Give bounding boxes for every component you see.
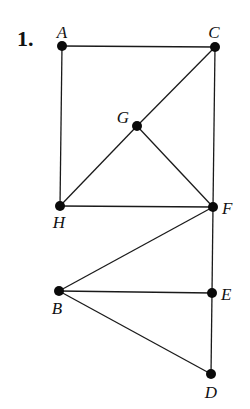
vertex-label-b: B [52, 299, 63, 318]
edge-g-h [60, 126, 137, 206]
edge-g-f [137, 126, 213, 207]
vertex-label-e: E [220, 285, 232, 304]
vertex-label-c: C [208, 23, 220, 42]
graph-labels: ACGHFBED [52, 23, 233, 402]
vertex-a [57, 41, 67, 51]
edge-h-f [60, 206, 213, 207]
edge-f-e [212, 207, 213, 293]
vertex-label-g: G [117, 108, 129, 127]
vertex-g [132, 121, 142, 131]
graph-diagram: 1. ACGHFBED [0, 0, 250, 409]
problem-number: 1. [17, 26, 34, 51]
vertex-h [55, 201, 65, 211]
vertex-e [207, 288, 217, 298]
edge-c-f [213, 47, 215, 207]
graph-nodes [54, 41, 220, 379]
vertex-d [206, 369, 216, 379]
vertex-f [208, 202, 218, 212]
edge-f-b [59, 207, 213, 291]
vertex-label-a: A [56, 23, 68, 42]
vertex-c [210, 42, 220, 52]
vertex-b [54, 286, 64, 296]
vertex-label-d: D [204, 383, 218, 402]
vertex-label-h: H [52, 213, 67, 232]
edge-b-d [59, 291, 211, 374]
edge-b-e [59, 291, 212, 293]
edge-e-d [211, 293, 212, 374]
edge-a-c [62, 46, 215, 47]
edge-a-h [60, 46, 62, 206]
vertex-label-f: F [221, 199, 233, 218]
graph-edges [59, 46, 215, 374]
edge-c-g [137, 47, 215, 126]
